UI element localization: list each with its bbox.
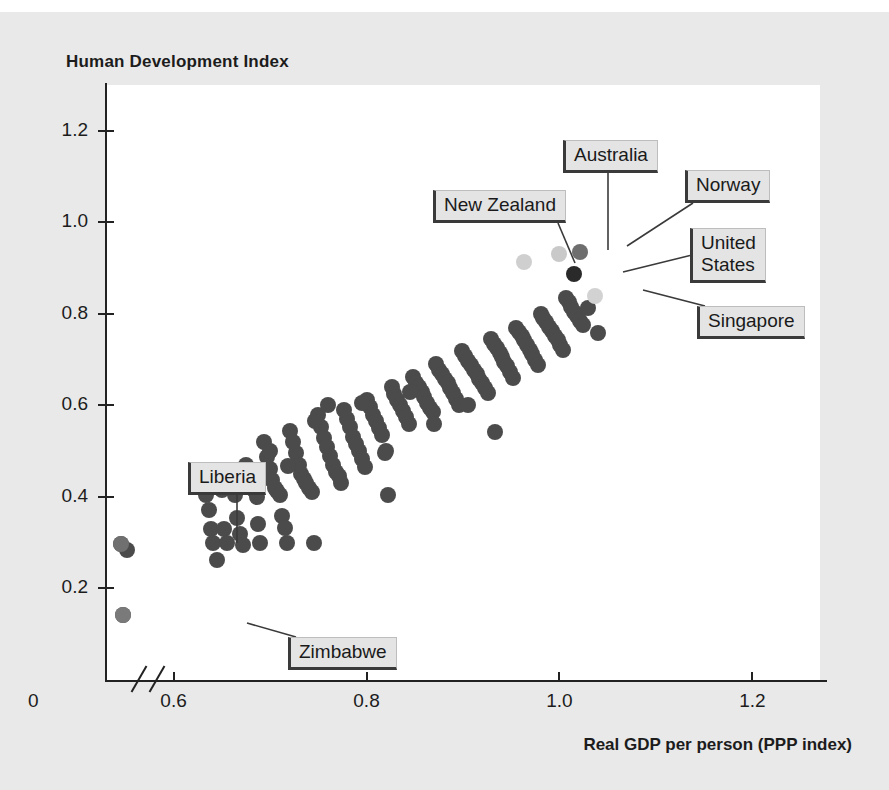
scatter-point	[354, 395, 370, 411]
scatter-point	[333, 475, 349, 491]
chart-page: Human Development Index 0.20.40.60.81.01…	[0, 0, 889, 790]
x-axis-tick-label: 0.8	[337, 690, 397, 712]
callout-united-states: United States	[690, 228, 766, 283]
scatter-point	[402, 384, 418, 400]
y-axis-tick	[98, 404, 114, 406]
scatter-point	[250, 516, 266, 532]
scatter-point	[378, 443, 394, 459]
y-axis-tick-label: 0.4	[36, 485, 88, 507]
callout-singapore: Singapore	[697, 306, 805, 339]
scatter-point-highlighted	[566, 266, 582, 282]
x-axis-tick	[366, 672, 368, 682]
y-axis-tick-label: 0.2	[36, 576, 88, 598]
scatter-point	[320, 397, 336, 413]
x-axis-line	[105, 680, 827, 682]
y-axis-tick-label: 1.2	[36, 119, 88, 141]
y-axis-tick	[98, 221, 114, 223]
x-axis-tick-label: 1.2	[722, 690, 782, 712]
y-axis-tick-label: 1.0	[36, 210, 88, 232]
callout-liberia: Liberia	[188, 462, 266, 495]
scatter-point	[487, 424, 503, 440]
x-axis-tick-label: 0.6	[144, 690, 204, 712]
scatter-point	[530, 357, 546, 373]
scatter-point	[374, 427, 390, 443]
scatter-point	[304, 484, 320, 500]
scatter-point	[590, 325, 606, 341]
scatter-point	[380, 487, 396, 503]
y-axis-tick	[98, 496, 114, 498]
scatter-point	[306, 535, 322, 551]
scatter-point	[262, 443, 278, 459]
x-axis-tick	[173, 672, 175, 682]
callout-new-zealand: New Zealand	[433, 190, 566, 223]
y-axis-tick-label: 0.8	[36, 302, 88, 324]
page-top-strip	[0, 0, 889, 12]
scatter-point	[279, 535, 295, 551]
scatter-point	[229, 510, 245, 526]
axis-origin-label: 0	[28, 690, 39, 712]
scatter-point	[426, 416, 442, 432]
x-axis-tick-label: 1.0	[529, 690, 589, 712]
scatter-point	[252, 535, 268, 551]
callout-norway: Norway	[685, 170, 770, 203]
scatter-point	[235, 537, 251, 553]
scatter-point	[555, 342, 571, 358]
scatter-point	[209, 552, 225, 568]
callout-australia: Australia	[563, 140, 658, 173]
scatter-point	[201, 502, 217, 518]
scatter-point	[460, 397, 476, 413]
scatter-point	[480, 385, 496, 401]
scatter-point	[357, 459, 373, 475]
y-axis-tick-label: 0.6	[36, 393, 88, 415]
scatter-point	[575, 317, 591, 333]
x-axis-tick	[558, 672, 560, 682]
y-axis-tick	[98, 587, 114, 589]
scatter-point	[401, 416, 417, 432]
scatter-point-highlighted	[587, 288, 603, 304]
callout-zimbabwe: Zimbabwe	[288, 637, 397, 670]
scatter-point	[277, 520, 293, 536]
y-axis-tick	[98, 313, 114, 315]
x-axis-title: Real GDP per person (PPP index)	[430, 735, 870, 755]
scatter-point	[272, 487, 288, 503]
scatter-point-highlighted	[115, 607, 131, 623]
scatter-point	[505, 370, 521, 386]
page-title: Human Development Index	[66, 52, 289, 72]
y-axis-tick	[98, 130, 114, 132]
scatter-point-highlighted	[551, 246, 567, 262]
y-axis-line	[105, 83, 107, 682]
scatter-point-highlighted	[516, 254, 532, 270]
scatter-point-highlighted	[572, 244, 588, 260]
x-axis-tick	[751, 672, 753, 682]
